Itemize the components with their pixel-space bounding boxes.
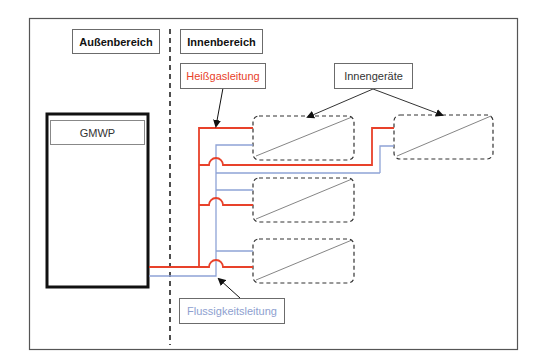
indoor-unit-2 bbox=[394, 115, 493, 159]
indoor-unit-3 bbox=[253, 178, 354, 222]
hot-gas-arrow bbox=[216, 88, 223, 126]
hot-gas-line bbox=[149, 128, 394, 267]
liquid-arrow bbox=[219, 279, 240, 298]
indoor-unit-1 bbox=[253, 116, 354, 160]
indoor-units-label: Innengeräte bbox=[334, 63, 413, 89]
outdoor-unit-label: GMWP bbox=[50, 120, 145, 145]
hot-gas-line-label: Heißgasleitung bbox=[180, 63, 266, 89]
indoor-zone-label: Innenbereich bbox=[180, 29, 263, 54]
indoor-unit-4 bbox=[253, 239, 354, 283]
indoor-arrow-right bbox=[373, 89, 442, 115]
indoor-arrow-left bbox=[308, 89, 373, 117]
outdoor-zone-label: Außenbereich bbox=[72, 29, 160, 54]
liquid-line-label: Flussigkeitsleitung bbox=[179, 298, 285, 324]
